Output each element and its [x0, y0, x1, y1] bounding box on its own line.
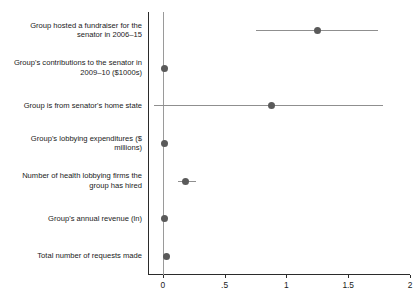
x-tick-mark [348, 275, 349, 278]
estimate-point [268, 102, 275, 109]
estimate-point [314, 27, 321, 34]
x-tick-label: 1.5 [342, 280, 354, 290]
x-tick-label: 0 [160, 280, 165, 290]
x-tick-mark [286, 275, 287, 278]
x-tick-mark [163, 275, 164, 278]
y-axis-labels: Group hosted a fundraiser for the senato… [0, 12, 142, 275]
estimate-point [161, 65, 168, 72]
x-tick-label: 1 [284, 280, 289, 290]
estimate-point [182, 178, 189, 185]
estimate-point [163, 253, 170, 260]
x-tick-label: .5 [221, 280, 228, 290]
x-tick-label: 2 [408, 280, 413, 290]
y-axis-line [148, 12, 149, 275]
y-axis-label: Group's annual revenue (ln) [6, 214, 142, 224]
x-tick-mark [225, 275, 226, 278]
y-axis-label: Number of health lobbying firms the grou… [6, 171, 142, 190]
y-axis-label: Group hosted a fundraiser for the senato… [6, 21, 142, 40]
estimate-point [161, 215, 168, 222]
plot-area [148, 12, 410, 275]
estimate-point [161, 140, 168, 147]
x-tick-mark [410, 275, 411, 278]
y-axis-label: Group's contributions to the senator in … [6, 59, 142, 78]
y-axis-label: Total number of requests made [6, 251, 142, 261]
y-axis-label: Group is from senator's home state [6, 101, 142, 111]
coefficient-plot: Group hosted a fundraiser for the senato… [0, 0, 419, 303]
y-axis-label: Group's lobbying expenditures ($ million… [6, 134, 142, 153]
x-axis-ticks: 0.511.52 [148, 275, 410, 301]
